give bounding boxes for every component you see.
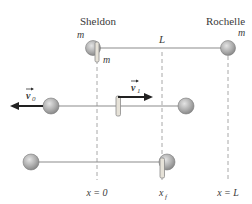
position-label-final: x f <box>158 187 168 201</box>
cylinder-middle <box>116 96 121 116</box>
svg-text:1: 1 <box>137 87 141 95</box>
left-sphere-middle <box>43 98 59 114</box>
velocity-label-v1: v 1 <box>131 80 141 96</box>
cylinder-top <box>95 42 99 62</box>
svg-text:v: v <box>26 90 31 101</box>
mass-label-cylinder: m <box>103 54 110 65</box>
svg-text:0: 0 <box>32 95 36 103</box>
mass-label-rochelle: m <box>238 27 245 38</box>
arrowhead-v0 <box>10 102 19 110</box>
right-sphere-middle <box>178 98 194 114</box>
length-label: L <box>158 33 165 45</box>
arrowhead-v1 <box>144 93 153 101</box>
cylinder-bottom <box>160 158 165 178</box>
svg-text:v: v <box>131 82 136 93</box>
rochelle-sphere <box>221 41 236 56</box>
left-sphere-bottom <box>23 154 39 170</box>
position-label-end: x = L <box>216 187 239 198</box>
sheldon-label: Sheldon <box>80 15 117 27</box>
velocity-label-v0: v 0 <box>26 88 36 104</box>
svg-text:f: f <box>165 193 168 201</box>
momentum-diagram: Sheldon Rochelle m m L m v 0 v 1 x = 0 x… <box>0 0 252 204</box>
svg-text:x: x <box>158 187 164 198</box>
mass-label-sheldon: m <box>77 29 84 40</box>
rochelle-label: Rochelle <box>206 15 245 27</box>
position-label-origin: x = 0 <box>85 187 107 198</box>
